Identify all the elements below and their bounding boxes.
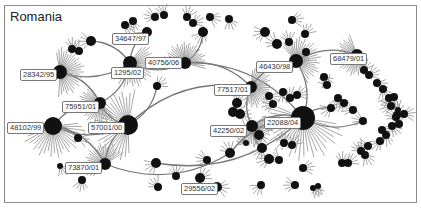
node-label: 1295/02 xyxy=(111,67,144,79)
graph-node xyxy=(264,154,274,164)
graph-node xyxy=(293,91,301,99)
graph-node xyxy=(78,176,86,184)
graph-node xyxy=(302,48,310,56)
graph-node xyxy=(379,85,387,93)
graph-node xyxy=(286,94,294,102)
node-label: 29556/02 xyxy=(181,183,218,195)
graph-node xyxy=(232,98,242,108)
node-label: 28342/95 xyxy=(20,69,57,81)
node-label: 22088/04 xyxy=(264,117,301,129)
graph-node xyxy=(68,45,76,53)
graph-node xyxy=(195,173,205,183)
graph-node xyxy=(395,120,403,128)
node-label: 75951/01 xyxy=(62,101,99,113)
graph-node xyxy=(327,104,335,112)
node-label: 57001/00 xyxy=(88,122,125,134)
graph-node xyxy=(359,117,367,125)
graph-node xyxy=(364,142,372,150)
graph-node xyxy=(378,126,386,134)
graph-node xyxy=(151,13,159,21)
graph-node xyxy=(288,16,296,24)
graph-node xyxy=(344,159,352,167)
hub-node xyxy=(246,120,258,132)
graph-node xyxy=(225,148,235,158)
graph-node xyxy=(257,181,265,189)
graph-node xyxy=(279,88,287,96)
graph-node xyxy=(151,158,161,168)
graph-node xyxy=(269,100,277,108)
graph-node xyxy=(373,79,381,87)
graph-node xyxy=(74,134,82,142)
graph-node xyxy=(203,156,211,164)
graph-node xyxy=(280,139,288,147)
graph-node xyxy=(340,99,348,107)
node-label: 40756/06 xyxy=(145,57,182,69)
graph-node xyxy=(75,47,83,55)
node-label: 77517/01 xyxy=(214,84,251,96)
graph-node xyxy=(86,36,96,46)
graph-node xyxy=(315,183,321,189)
graph-node xyxy=(57,163,63,169)
graph-node xyxy=(288,141,296,149)
graph-node xyxy=(390,93,398,101)
graph-node xyxy=(172,172,180,180)
graph-node xyxy=(260,27,270,37)
node-label: 73870/01 xyxy=(65,162,102,174)
node-label: 46430/98 xyxy=(256,61,293,73)
graph-node xyxy=(320,73,328,81)
graph-node xyxy=(272,39,282,49)
graph-node xyxy=(388,122,396,130)
node-label: 42250/02 xyxy=(210,125,247,137)
graph-node xyxy=(275,156,283,164)
hub-node xyxy=(44,117,62,135)
graph-node xyxy=(257,143,267,153)
graph-node xyxy=(153,82,161,90)
graph-node xyxy=(285,38,293,46)
graph-node xyxy=(129,17,137,25)
graph-node xyxy=(206,13,214,21)
graph-node xyxy=(198,27,208,37)
node-label: 48102/99 xyxy=(7,122,44,134)
graph-node xyxy=(376,137,384,145)
graph-node xyxy=(395,107,401,113)
node-label: 34647/97 xyxy=(112,33,149,45)
graph-node xyxy=(243,140,249,146)
graph-node xyxy=(323,81,331,89)
graph-node xyxy=(225,15,233,23)
node-label: 68479/01 xyxy=(330,53,367,65)
graph-node xyxy=(291,181,299,189)
graph-node xyxy=(235,109,245,119)
graph-node xyxy=(189,19,197,27)
graph-node xyxy=(121,21,129,29)
graph-node xyxy=(400,110,408,118)
graph-node xyxy=(154,183,162,191)
graph-node xyxy=(265,92,273,100)
graph-node xyxy=(387,102,395,110)
graph-node xyxy=(301,30,309,38)
graph-node xyxy=(299,164,307,172)
graph-node xyxy=(183,13,191,21)
graph-node xyxy=(365,71,373,79)
graph-node xyxy=(254,130,264,140)
graph-node xyxy=(349,106,357,114)
graph-node xyxy=(160,11,168,19)
graph-node xyxy=(361,151,369,159)
